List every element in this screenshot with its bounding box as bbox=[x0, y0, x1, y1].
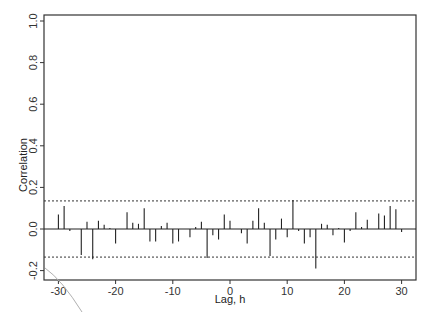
y-axis-title: Correlation bbox=[17, 138, 29, 192]
y-tick-label: -0.2 bbox=[27, 261, 39, 280]
correlogram-chart: -30-20-100102030 -0.20.00.20.40.60.81.0 … bbox=[0, 0, 437, 323]
plot-frame bbox=[44, 15, 416, 280]
correlation-stems bbox=[58, 200, 401, 269]
x-tick-label: 30 bbox=[395, 285, 407, 297]
y-axis-ticks: -0.20.00.20.40.60.81.0 bbox=[27, 13, 44, 280]
x-tick-label: -20 bbox=[108, 285, 124, 297]
x-tick-label: 10 bbox=[281, 285, 293, 297]
x-axis-title: Lag, h bbox=[215, 293, 246, 305]
x-tick-label: -10 bbox=[165, 285, 181, 297]
y-tick-label: 1.0 bbox=[27, 13, 39, 28]
y-tick-label: 0.6 bbox=[27, 97, 39, 112]
plot-border bbox=[44, 15, 416, 280]
x-tick-label: 20 bbox=[338, 285, 350, 297]
y-tick-label: 0.8 bbox=[27, 55, 39, 70]
y-tick-label: 0.0 bbox=[27, 221, 39, 236]
